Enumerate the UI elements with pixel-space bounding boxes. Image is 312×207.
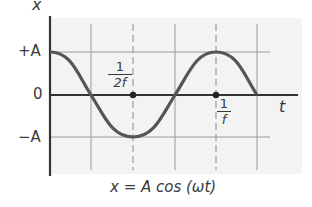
half-period-label: 1 2f — [108, 60, 132, 89]
tick-zero: 0 — [33, 87, 43, 102]
half-period-numerator: 1 — [116, 59, 124, 74]
equation: x = A cos (ωt) — [110, 180, 216, 195]
half-period-denominator: 2f — [114, 75, 127, 90]
period-numerator: 1 — [220, 96, 228, 111]
y-axis-label: x — [32, 0, 41, 13]
t-axis-label: t — [279, 99, 285, 115]
half-period-dot — [130, 92, 136, 98]
period-label: 1 f — [217, 97, 231, 126]
cosine-plot — [0, 0, 312, 207]
tick-plus-a: +A — [18, 44, 41, 59]
period-denominator: f — [222, 112, 227, 127]
tick-minus-a: −A — [18, 130, 41, 145]
